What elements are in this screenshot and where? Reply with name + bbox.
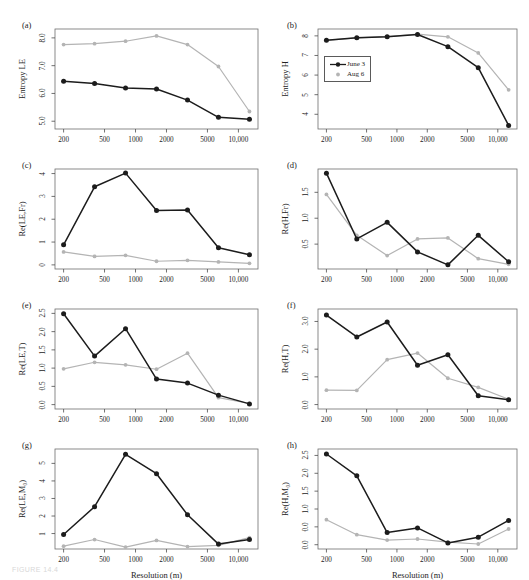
panel-e-data-point bbox=[155, 367, 159, 371]
panel-f-data-point bbox=[476, 393, 481, 398]
panel-e-data-point bbox=[62, 367, 66, 371]
panel-a-ytick: 6.0 bbox=[38, 83, 48, 103]
panel-d-ytick: 1.0 bbox=[301, 208, 311, 228]
panel-h-data-point bbox=[476, 535, 481, 540]
panel-f-series-line bbox=[326, 315, 508, 400]
panel-f-data-point bbox=[415, 363, 420, 368]
panel-f-data-point bbox=[506, 397, 511, 402]
panel-c-data-point bbox=[93, 255, 97, 259]
panel-b-data-point bbox=[446, 35, 450, 39]
panel-h-data-point bbox=[415, 525, 420, 530]
panel-h-ytick: 0.0 bbox=[301, 517, 311, 537]
panel-h-ytick: 0.0 bbox=[301, 535, 311, 555]
panel-a-xtick: 10,000 bbox=[218, 136, 258, 144]
panel-c-ytick: 1 bbox=[38, 232, 48, 252]
panel-h-data-point bbox=[385, 530, 390, 535]
panel-h-data-point bbox=[445, 540, 450, 545]
panel-g-data-point bbox=[185, 512, 190, 517]
panel-e-ytick: 2.0 bbox=[38, 322, 48, 342]
panel-g-series-line bbox=[64, 454, 250, 544]
panel-g-xtick: 10,000 bbox=[218, 556, 258, 564]
panel-d-data-point bbox=[446, 236, 450, 240]
panel-a-data-point bbox=[216, 115, 221, 120]
panel-b-ytick: 8 bbox=[301, 26, 311, 46]
panel-g-data-point bbox=[154, 471, 159, 476]
panel-a-data-point bbox=[247, 117, 252, 122]
panel-h-series-line bbox=[326, 520, 508, 544]
panel-e-data-point bbox=[185, 381, 190, 386]
panel-b-xtick: 2000 bbox=[407, 136, 447, 144]
panel-d-ylabel: Re(H,Fr) bbox=[280, 169, 290, 269]
panel-h-xtick: 10,000 bbox=[478, 556, 518, 564]
panel-c-ytick: 2 bbox=[38, 209, 48, 229]
panel-e-ytick: 2.5 bbox=[38, 303, 48, 323]
panel-c-xtick: 200 bbox=[44, 276, 84, 284]
panel-g-ytick: 2 bbox=[38, 506, 48, 526]
panel-f-xtick: 2000 bbox=[407, 416, 447, 424]
panel-g-data-point bbox=[92, 504, 97, 509]
panel-g-data-point bbox=[61, 532, 66, 537]
panel-d-xtick: 10,000 bbox=[478, 276, 518, 284]
panel-e-ytick: 1.5 bbox=[38, 340, 48, 360]
panel-g-data-point bbox=[247, 537, 252, 542]
panel-d-data-point bbox=[415, 249, 420, 254]
panel-b-data-point bbox=[506, 123, 511, 128]
panel-c-data-point bbox=[185, 208, 190, 213]
panel-e-data-point bbox=[92, 354, 97, 359]
panel-f-data-point bbox=[445, 352, 450, 357]
panel-h-xtick: 2000 bbox=[407, 556, 447, 564]
panel-d-data-point bbox=[476, 257, 480, 261]
panel-a-ytick: 8.0 bbox=[38, 28, 48, 48]
panel-c-ytick: 4 bbox=[38, 164, 48, 184]
panel-f-ylabel: Re(H,T) bbox=[280, 309, 290, 409]
panel-e-data-point bbox=[93, 360, 97, 364]
panel-h-ytick: 2.5 bbox=[301, 445, 311, 465]
panel-e-data-point bbox=[186, 351, 190, 355]
panel-f-data-point bbox=[507, 397, 511, 401]
panel-c-xtick: 10,000 bbox=[218, 276, 258, 284]
panel-g-frame bbox=[55, 449, 258, 549]
panel-c-ylabel: Re(LE,Fr) bbox=[17, 169, 27, 269]
panel-h-ytick: 1.0 bbox=[301, 499, 311, 519]
panel-c-data-point bbox=[155, 259, 159, 263]
panel-e-data-point bbox=[216, 393, 221, 398]
panel-c-data-point bbox=[247, 252, 252, 257]
panel-c-data-point bbox=[216, 245, 221, 250]
panel-h-ytick: 1.5 bbox=[301, 481, 311, 501]
panel-a-data-point bbox=[186, 43, 190, 47]
panel-f-data-point bbox=[385, 320, 390, 325]
panel-e-series-line bbox=[64, 314, 250, 404]
panel-c-xtick: 2000 bbox=[146, 276, 186, 284]
panel-f-xtick: 10,000 bbox=[478, 416, 518, 424]
panel-e-data-point bbox=[217, 396, 221, 400]
panel-g-xtick: 200 bbox=[44, 556, 84, 564]
panel-c-data-point bbox=[248, 261, 252, 265]
panel-c-data-point bbox=[217, 260, 221, 264]
panel-f-data-point bbox=[476, 385, 480, 389]
panel-h-frame bbox=[318, 449, 517, 549]
panel-b-ytick: 7 bbox=[301, 45, 311, 65]
panel-e-xtick: 2000 bbox=[146, 416, 186, 424]
panel-g-ylabel: Re(LE,M₀) bbox=[17, 449, 27, 549]
panel-d-frame bbox=[318, 169, 517, 269]
panel-d-data-point bbox=[476, 233, 481, 238]
panel-g-data-point bbox=[123, 452, 128, 457]
panel-g-xlabel: Resolution (m) bbox=[55, 570, 258, 580]
figure-caption: FIGURE 14.4 bbox=[12, 566, 58, 573]
panel-b-data-point bbox=[385, 35, 389, 39]
panel-a-data-point bbox=[93, 42, 97, 46]
legend-label: June 3 bbox=[347, 60, 365, 68]
panel-f-ytick: 0.0 bbox=[301, 395, 311, 415]
panel-h-xlabel: Resolution (m) bbox=[318, 570, 517, 580]
panel-h-data-point bbox=[506, 518, 511, 523]
panel-b-data-point bbox=[385, 34, 390, 39]
panel-d-data-point bbox=[506, 259, 511, 264]
panel-h-ylabel: Re(H,M₀) bbox=[280, 449, 290, 549]
panel-b-data-point bbox=[415, 32, 420, 37]
panel-c-series-line bbox=[64, 173, 250, 255]
panel-a-data-point bbox=[154, 87, 159, 92]
